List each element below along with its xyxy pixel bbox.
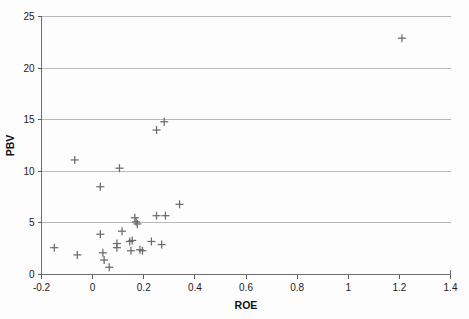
data-point [160,118,168,126]
data-point [99,249,107,257]
data-point-markers [50,34,406,271]
x-tick-label-6: 1 [345,282,351,293]
y-axis-ticks: 0510152025 [23,11,41,280]
x-tick-label-5: 0.8 [290,282,304,293]
x-tick-label-2: 0.2 [137,282,151,293]
data-point [127,247,135,255]
data-point [118,227,126,235]
data-point [132,218,140,226]
gridlines [42,17,451,223]
x-tick-label-8: 1.4 [444,282,458,293]
data-point [96,183,104,191]
scatter-chart-figure: -0.200.20.40.60.811.21.4 0510152025 ROEP… [0,0,469,319]
x-axis-title: ROE [235,299,258,311]
data-point [73,251,81,259]
data-point [50,244,58,252]
y-tick-label-0: 0 [29,269,35,280]
x-tick-label-1: 0 [90,282,96,293]
x-tick-label-0: -0.2 [33,282,51,293]
data-point [153,126,161,134]
x-tick-label-4: 0.6 [239,282,253,293]
scatter-plot-canvas: -0.200.20.40.60.811.21.4 0510152025 ROEP… [0,0,469,319]
data-point [398,34,406,42]
data-point [176,200,184,208]
data-point [158,241,166,249]
data-point [96,230,104,238]
y-tick-label-1: 5 [29,217,35,228]
x-tick-label-7: 1.2 [392,282,406,293]
y-tick-label-3: 15 [23,114,35,125]
axis-lines [42,17,451,275]
data-point [71,156,79,164]
data-point [105,263,113,271]
data-point [153,212,161,220]
y-tick-label-4: 20 [23,63,35,74]
y-axis-title: PBV [4,135,16,157]
data-point [147,237,155,245]
data-point [100,256,108,264]
y-tick-label-2: 10 [23,166,35,177]
y-tick-label-5: 25 [23,11,35,22]
data-point [161,212,169,220]
x-axis-ticks: -0.200.20.40.60.811.21.4 [33,275,458,293]
data-point [113,244,121,252]
x-tick-label-3: 0.4 [188,282,202,293]
